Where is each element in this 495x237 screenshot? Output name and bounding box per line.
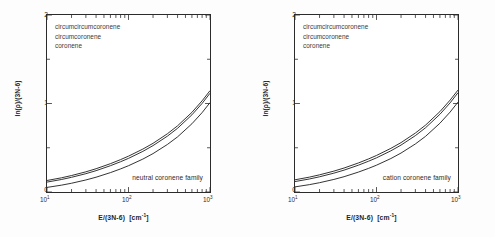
plot-frame: circumcircumcoronene circumcoronene coro…	[294, 14, 459, 193]
panel-neutral: 2 1 0 ln(ρ)/(3N-6) circumcircumcoronene …	[0, 0, 247, 237]
curve-circumcoronene	[295, 93, 458, 182]
x-axis-title: E/(3N-6) [cm-1]	[248, 213, 495, 221]
y-axis-title: ln(ρ)/(3N-6)	[262, 54, 269, 144]
plot-frame: circumcircumcoronene circumcoronene coro…	[46, 14, 211, 193]
family-annotation: cation coronene family	[383, 174, 451, 181]
x-tick-label-10e1: 101	[288, 195, 298, 203]
legend-item-circumcoronene: circumcoronene	[303, 32, 368, 42]
curve-circumcircumcoronene	[295, 90, 458, 180]
panel-cation: 2 1 0 ln(ρ)/(3N-6) circumcircumcoronene …	[248, 0, 495, 237]
legend-item-circumcircumcoronene: circumcircumcoronene	[303, 22, 368, 32]
x-tick-label-10e1: 101	[40, 195, 50, 203]
curve-circumcoronene	[47, 93, 210, 182]
y-axis-title: ln(ρ)/(3N-6)	[14, 54, 21, 144]
curve-circumcircumcoronene	[47, 91, 210, 181]
figure-two-panel-density-of-states: 2 1 0 ln(ρ)/(3N-6) circumcircumcoronene …	[0, 0, 495, 237]
family-annotation: neutral coronene family	[132, 174, 203, 181]
legend-item-coronene: coronene	[55, 41, 120, 51]
legend: circumcircumcoronene circumcoronene coro…	[303, 22, 368, 51]
x-tick-label-10e3: 103	[451, 195, 461, 203]
legend-item-circumcoronene: circumcoronene	[55, 32, 120, 42]
legend-item-coronene: coronene	[303, 41, 368, 51]
x-tick-label-10e2: 102	[370, 195, 380, 203]
x-axis-title: E/(3N-6) [cm-1]	[0, 213, 247, 221]
legend: circumcircumcoronene circumcoronene coro…	[55, 22, 120, 51]
x-tick-label-10e2: 102	[122, 195, 132, 203]
legend-item-circumcircumcoronene: circumcircumcoronene	[55, 22, 120, 32]
x-tick-label-10e3: 103	[203, 195, 213, 203]
